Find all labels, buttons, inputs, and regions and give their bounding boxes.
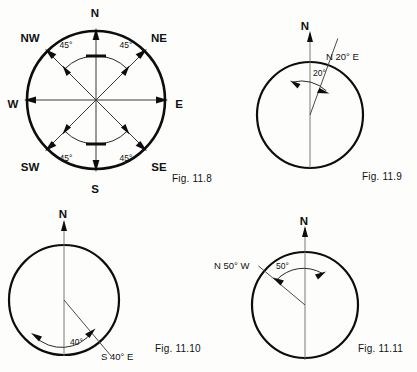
angle-label-11-9: 20° [313, 68, 326, 78]
arrowhead-ne [136, 49, 147, 59]
figure-caption-11-8: Fig. 11.8 [172, 173, 212, 184]
north-label-11-9: N [301, 20, 309, 32]
arrowhead-se [136, 141, 147, 151]
ray-se [96, 100, 145, 149]
cardinal-label-e: E [175, 98, 183, 110]
cardinal-label-ne: NE [151, 32, 167, 44]
angle-label-n-ne: 45° [120, 40, 133, 50]
north-arrowhead-11-10 [61, 220, 67, 231]
arc-n-ne [96, 56, 127, 69]
figure-sheet: N NE E SE S SW W NW 45° 45° 45° 45° Fig.… [0, 0, 417, 372]
figure-caption-11-11: Fig. 11.11 [358, 343, 403, 354]
figure-compass-rose: N NE E SE S SW W NW 45° 45° 45° 45° Fig.… [8, 7, 213, 195]
bearing-ray-11-10 [64, 300, 112, 357]
figure-bearing-n50w: N N 50° W 50° Fig. 11.11 [214, 215, 403, 360]
arc-se-s [96, 131, 127, 144]
bearing-ray-11-11 [258, 266, 305, 305]
figure-bearing-s40e: N S 40° E 40° Fig. 11.10 [9, 208, 201, 362]
north-label-11-11: N [300, 215, 308, 227]
arrowhead-sw [45, 141, 56, 151]
angle-label-sw-s: 45° [60, 153, 73, 163]
angle-label-nw-n: 45° [60, 40, 73, 50]
north-label-11-10: N [59, 208, 67, 220]
bearing-label-11-11: N 50° W [214, 260, 250, 271]
angle-label-11-11: 50° [276, 261, 289, 271]
cardinal-label-se: SE [151, 161, 167, 173]
north-arrowhead-11-11 [302, 226, 308, 237]
angle-label-11-10: 40° [70, 337, 83, 347]
figure-caption-11-9: Fig. 11.9 [362, 171, 402, 182]
arc-nw-n [65, 56, 96, 69]
arc-arrow-right-11-10 [85, 329, 96, 339]
bearing-label-11-10: S 40° E [101, 351, 133, 362]
cardinal-label-nw: NW [20, 32, 39, 44]
figure-caption-11-10: Fig. 11.10 [155, 343, 201, 354]
cardinal-label-w: W [8, 98, 19, 110]
arc-s-sw [65, 131, 96, 144]
ray-sw [47, 100, 96, 149]
north-arrowhead-11-9 [307, 31, 313, 42]
bearing-label-11-9: N 20° E [326, 51, 359, 62]
angle-label-s-se: 45° [120, 153, 133, 163]
cardinal-label-s: S [91, 183, 99, 195]
ray-nw [47, 51, 96, 100]
cardinal-label-n: N [91, 7, 99, 19]
ray-ne [96, 51, 145, 100]
arc-arrow-left-11-10 [31, 333, 42, 342]
figure-bearing-n20e: N N 20° E 20° Fig. 11.9 [257, 20, 402, 182]
arrowhead-nw [45, 49, 56, 59]
cardinal-label-sw: SW [21, 161, 40, 173]
